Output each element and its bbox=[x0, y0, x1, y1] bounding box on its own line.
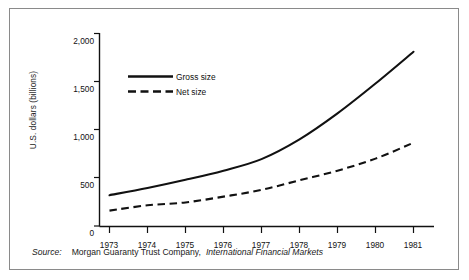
axes-group bbox=[94, 33, 434, 233]
figure-frame: U.S. dollars (billions) 2,000 1,500 1,00… bbox=[9, 8, 459, 270]
y-axis-ticks bbox=[94, 34, 100, 227]
x-axis-ticks bbox=[110, 227, 414, 234]
source-publisher: Morgan Guaranty Trust Company, bbox=[72, 247, 201, 257]
series-line-gross-size bbox=[110, 52, 414, 195]
legend-label-gross-size: Gross size bbox=[176, 72, 216, 82]
series-line-net-size bbox=[110, 143, 414, 211]
chart-plot-area: U.S. dollars (billions) 2,000 1,500 1,00… bbox=[10, 9, 460, 234]
source-note: Source:Morgan Guaranty Trust Company,Int… bbox=[32, 247, 323, 257]
line-chart-svg bbox=[10, 9, 460, 244]
legend bbox=[128, 77, 173, 92]
source-publication: International Financial Markets bbox=[206, 247, 323, 257]
source-prefix: Source: bbox=[32, 247, 62, 257]
legend-label-net-size: Net size bbox=[176, 87, 206, 97]
